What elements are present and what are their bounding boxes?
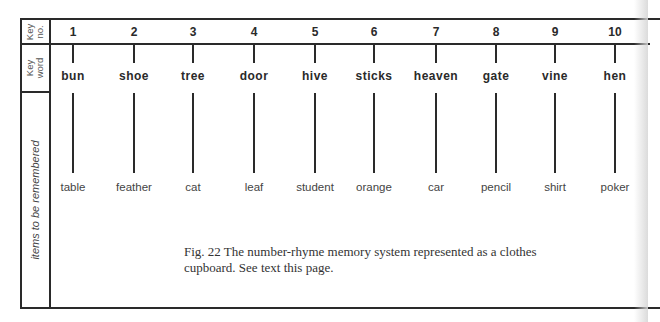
key-number: 7 (406, 25, 466, 39)
caption-line-2: cupboard. See text this page. (184, 260, 564, 276)
hook-line-upper (495, 45, 497, 63)
hook-line-lower (495, 93, 497, 173)
key-number: 6 (344, 25, 404, 39)
key-number: 5 (285, 25, 345, 39)
key-word: heaven (406, 69, 466, 83)
hook-line-upper (435, 45, 437, 63)
hook-line-lower (614, 93, 616, 173)
key-word: sticks (344, 69, 404, 83)
item-to-remember: orange (339, 181, 409, 193)
key-number: 1 (43, 25, 103, 39)
hook-line-lower (72, 93, 74, 173)
hook-line-lower (192, 93, 194, 173)
key-number: 4 (224, 25, 284, 39)
key-word: gate (466, 69, 526, 83)
column-2: 2shoefeather (104, 0, 164, 322)
key-number: 2 (104, 25, 164, 39)
page-edge-shadow (634, 0, 648, 322)
key-number: 9 (525, 25, 585, 39)
hook-line-upper (72, 45, 74, 63)
hook-line-lower (253, 93, 255, 173)
hook-line-upper (133, 45, 135, 63)
caption-line-1: Fig. 22 The number-rhyme memory system r… (184, 244, 564, 260)
hook-line-lower (133, 93, 135, 173)
hook-line-lower (554, 93, 556, 173)
key-number: 8 (466, 25, 526, 39)
key-word: vine (525, 69, 585, 83)
hook-line-upper (554, 45, 556, 63)
hook-line-lower (373, 93, 375, 173)
key-word: tree (163, 69, 223, 83)
hook-line-lower (435, 93, 437, 173)
hook-line-upper (373, 45, 375, 63)
hook-line-upper (314, 45, 316, 63)
hook-line-upper (614, 45, 616, 63)
row-label-key-word-text: Key word (25, 54, 45, 82)
key-word: bun (43, 69, 103, 83)
item-to-remember: table (38, 181, 108, 193)
hook-line-lower (314, 93, 316, 173)
column-1: 1buntable (43, 0, 103, 322)
row-label-items-text: items to be remembered (30, 140, 40, 259)
key-word: shoe (104, 69, 164, 83)
key-word: door (224, 69, 284, 83)
figure-caption: Fig. 22 The number-rhyme memory system r… (184, 244, 564, 276)
item-to-remember: cat (158, 181, 228, 193)
hook-line-upper (192, 45, 194, 63)
key-number: 3 (163, 25, 223, 39)
item-to-remember: leaf (219, 181, 289, 193)
row-label-key-no-text: Key no. (25, 21, 45, 43)
key-word: hive (285, 69, 345, 83)
hook-line-upper (253, 45, 255, 63)
